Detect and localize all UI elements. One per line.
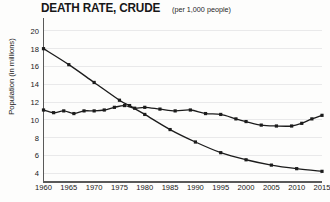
- data-point-marker: [320, 114, 323, 117]
- data-point-marker: [52, 111, 55, 114]
- data-point-marker: [67, 63, 70, 66]
- data-point-marker: [275, 124, 278, 127]
- data-point-marker: [260, 124, 263, 127]
- data-point-marker: [270, 164, 273, 167]
- data-point-marker: [194, 140, 197, 143]
- axis-lines: [43, 18, 323, 182]
- data-point-marker: [93, 81, 96, 84]
- data-point-marker: [103, 108, 106, 111]
- data-point-marker: [174, 109, 177, 112]
- gridlines: [44, 31, 323, 173]
- data-point-marker: [300, 122, 303, 125]
- data-point-marker: [133, 107, 136, 110]
- data-point-marker: [290, 124, 293, 127]
- data-point-marker: [295, 167, 298, 170]
- data-point-marker: [82, 109, 85, 112]
- data-point-marker: [168, 128, 171, 131]
- data-point-marker: [219, 113, 222, 116]
- series-line: [44, 106, 323, 127]
- data-point-marker: [158, 108, 161, 111]
- data-point-marker: [143, 113, 146, 116]
- data-point-marker: [72, 112, 75, 115]
- data-point-marker: [113, 106, 116, 109]
- data-point-marker: [42, 108, 45, 111]
- data-point-marker: [189, 108, 192, 111]
- data-point-marker: [123, 104, 126, 107]
- data-point-marker: [42, 47, 45, 50]
- data-point-marker: [244, 120, 247, 123]
- data-point-marker: [320, 170, 323, 173]
- data-point-marker: [143, 106, 146, 109]
- data-point-marker: [62, 109, 65, 112]
- data-point-marker: [234, 117, 237, 120]
- data-point-marker: [310, 117, 313, 120]
- data-point-marker: [93, 109, 96, 112]
- data-point-marker: [118, 99, 121, 102]
- data-point-marker: [244, 158, 247, 161]
- data-point-marker: [219, 151, 222, 154]
- data-point-marker: [204, 112, 207, 115]
